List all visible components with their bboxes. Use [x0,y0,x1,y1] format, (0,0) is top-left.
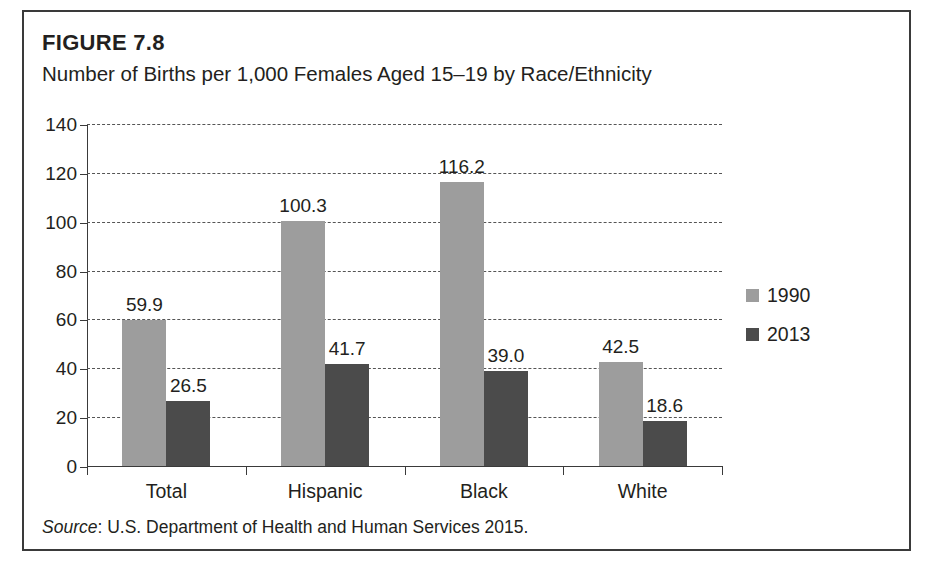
x-axis-category-hispanic: Hispanic [288,480,363,503]
bar-value-label: 100.3 [279,195,327,217]
bar-hispanic-2013[interactable] [325,364,369,466]
x-axis-category-black: Black [460,480,508,503]
legend-swatch-icon-1990 [746,289,759,302]
y-axis-tick-label: 80 [56,261,77,283]
bar-white-2013[interactable] [643,421,687,466]
y-axis-tick-label: 120 [45,163,77,185]
x-axis-tick-mark [722,466,723,475]
legend-item-1990[interactable]: 1990 [746,284,810,307]
gridline: 140 [87,124,722,125]
bar-total-2013[interactable] [166,401,210,466]
bar-value-label: 41.7 [329,338,366,360]
y-axis-tick-mark [80,418,87,419]
y-axis-tick-mark [80,174,87,175]
bar-total-1990[interactable] [122,320,166,466]
y-axis-tick-mark [80,369,87,370]
x-axis-tick-mark [563,466,564,475]
y-axis-tick-mark [80,223,87,224]
legend-swatch-icon-2013 [746,328,759,341]
bar-value-label: 18.6 [646,395,683,417]
source-note: Source: U.S. Department of Health and Hu… [42,517,528,538]
chart-plot: 02040608010012014059.926.5Total100.341.7… [24,12,913,553]
bar-black-1990[interactable] [440,182,484,466]
bar-value-label: 59.9 [126,294,163,316]
x-axis-category-white: White [618,480,668,503]
bar-value-label: 39.0 [487,345,524,367]
bar-value-label: 26.5 [170,375,207,397]
gridline: 120 [87,173,722,174]
gridline: 100 [87,222,722,223]
y-axis-tick-label: 100 [45,212,77,234]
bar-hispanic-1990[interactable] [281,221,325,466]
x-axis-tick-mark [405,466,406,475]
y-axis-tick-label: 140 [45,114,77,136]
x-axis-tick-mark [246,466,247,475]
x-axis-tick-mark [87,466,88,475]
y-axis-tick-mark [80,125,87,126]
bar-white-1990[interactable] [599,362,643,466]
y-axis-tick-label: 20 [56,407,77,429]
source-word: Source [42,517,97,537]
y-axis-tick-mark [80,467,87,468]
y-axis-tick-label: 0 [66,456,77,478]
gridline: 80 [87,271,722,272]
legend-label-1990: 1990 [767,284,810,307]
gridline: 60 [87,319,722,320]
chart-legend: 1990 2013 [746,284,810,362]
bar-value-label: 116.2 [439,156,485,178]
plot-area: 02040608010012014059.926.5Total100.341.7… [87,124,722,466]
y-axis-tick-label: 60 [56,309,77,331]
figure-card: FIGURE 7.8 Number of Births per 1,000 Fe… [22,10,911,551]
bar-black-2013[interactable] [484,371,528,466]
y-axis-tick-mark [80,272,87,273]
x-axis-category-total: Total [146,480,187,503]
y-axis-tick-label: 40 [56,358,77,380]
y-axis-tick-mark [80,320,87,321]
source-text: : U.S. Department of Health and Human Se… [97,517,528,537]
bar-value-label: 42.5 [602,336,639,358]
legend-label-2013: 2013 [767,323,810,346]
legend-item-2013[interactable]: 2013 [746,323,810,346]
